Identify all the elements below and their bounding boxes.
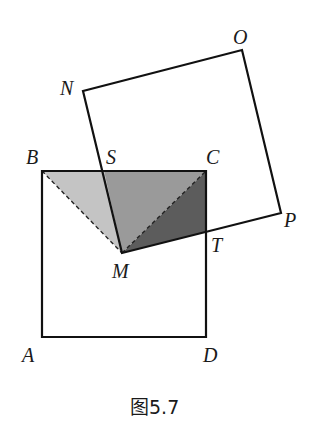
label-T: T	[211, 234, 224, 256]
label-S: S	[106, 146, 116, 168]
label-A: A	[20, 344, 35, 366]
label-O: O	[233, 26, 247, 48]
label-P: P	[283, 209, 296, 231]
label-D: D	[202, 344, 218, 366]
figure-caption: 图5.7	[130, 396, 179, 418]
label-B: B	[26, 146, 38, 168]
geometry-figure: B S C N O P T M A D 图5.7	[0, 0, 315, 435]
label-M: M	[111, 260, 130, 282]
label-C: C	[206, 146, 220, 168]
label-N: N	[59, 77, 75, 99]
